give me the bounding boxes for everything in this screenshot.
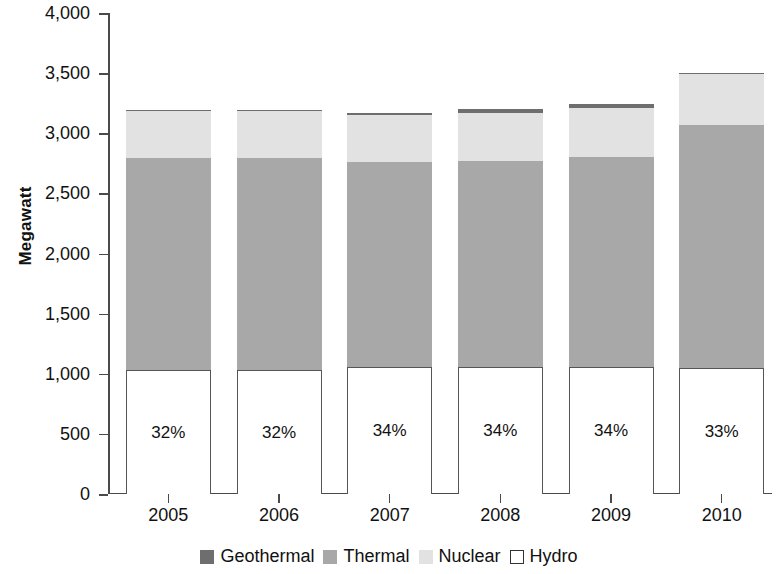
y-axis-tick-label: 1,500 bbox=[45, 305, 90, 323]
y-axis-tick bbox=[99, 314, 108, 316]
legend-item-nuclear[interactable]: Nuclear bbox=[419, 546, 501, 567]
bar-data-label: 34% bbox=[459, 421, 542, 441]
bar-group[interactable]: 33% bbox=[679, 13, 764, 494]
bar-segment-geothermal[interactable] bbox=[126, 110, 211, 111]
y-axis-line bbox=[108, 13, 110, 494]
y-axis-tick bbox=[99, 133, 108, 135]
bar-group[interactable]: 34% bbox=[347, 13, 432, 494]
x-axis-tick bbox=[500, 494, 502, 503]
bar-segment-thermal[interactable] bbox=[347, 162, 432, 367]
bar-segment-nuclear[interactable] bbox=[126, 111, 211, 158]
bar-data-label: 32% bbox=[238, 423, 321, 443]
y-axis-tick-label: 500 bbox=[60, 425, 90, 443]
x-axis-tick bbox=[610, 494, 612, 503]
bar-data-label: 33% bbox=[680, 422, 763, 442]
bar-segment-geothermal[interactable] bbox=[458, 109, 543, 113]
bar-data-label: 32% bbox=[127, 423, 210, 443]
legend-swatch-nuclear-icon bbox=[419, 550, 433, 564]
plot-area: 32%32%34%34%34%33% bbox=[108, 13, 772, 494]
bar-segment-thermal[interactable] bbox=[458, 161, 543, 367]
bar-segment-hydro[interactable]: 34% bbox=[569, 367, 654, 494]
bar-segment-hydro[interactable]: 34% bbox=[458, 367, 543, 494]
x-axis-tick bbox=[721, 494, 723, 503]
bar-segment-hydro[interactable]: 32% bbox=[237, 370, 322, 494]
bar-segment-nuclear[interactable] bbox=[569, 108, 654, 157]
legend-swatch-geothermal-icon bbox=[200, 550, 214, 564]
bar-segment-geothermal[interactable] bbox=[237, 110, 322, 111]
x-axis-tick-labels: 200520062007200820092010 bbox=[108, 505, 772, 535]
bar-data-label: 34% bbox=[348, 421, 431, 441]
x-axis-tick-label: 2007 bbox=[370, 505, 410, 526]
bar-segment-hydro[interactable]: 34% bbox=[347, 367, 432, 494]
x-axis-tick bbox=[278, 494, 280, 503]
bar-segment-geothermal[interactable] bbox=[347, 113, 432, 114]
legend-label-geothermal: Geothermal bbox=[220, 546, 314, 567]
bar-group[interactable]: 34% bbox=[458, 13, 543, 494]
y-axis-tick bbox=[99, 193, 108, 195]
y-axis-tick bbox=[99, 434, 108, 436]
x-axis-tick-label: 2009 bbox=[591, 505, 631, 526]
x-axis-tick bbox=[168, 494, 170, 503]
y-axis-tick-label: 3,500 bbox=[45, 64, 90, 82]
y-axis-tick bbox=[99, 13, 108, 15]
bar-segment-hydro[interactable]: 33% bbox=[679, 368, 764, 494]
y-axis-tick bbox=[99, 374, 108, 376]
legend-label-nuclear: Nuclear bbox=[439, 546, 501, 567]
legend-swatch-hydro-icon bbox=[510, 550, 524, 564]
bar-segment-nuclear[interactable] bbox=[679, 74, 764, 125]
bar-group[interactable]: 34% bbox=[569, 13, 654, 494]
bar-segment-nuclear[interactable] bbox=[347, 115, 432, 162]
y-axis-tick-label: 4,000 bbox=[45, 4, 90, 22]
x-axis-tick-label: 2008 bbox=[480, 505, 520, 526]
y-axis-tick-label: 0 bbox=[80, 485, 90, 503]
legend-item-hydro[interactable]: Hydro bbox=[510, 546, 578, 567]
bar-data-label: 34% bbox=[570, 421, 653, 441]
bar-group[interactable]: 32% bbox=[126, 13, 211, 494]
y-axis-tick-label: 3,000 bbox=[45, 124, 90, 142]
chart-container: Megawatt 05001,0001,5002,0002,5003,0003,… bbox=[0, 0, 778, 574]
y-axis-tick-label: 2,500 bbox=[45, 184, 90, 202]
bar-segment-geothermal[interactable] bbox=[569, 104, 654, 108]
bar-segment-nuclear[interactable] bbox=[237, 111, 322, 158]
x-axis-tick bbox=[389, 494, 391, 503]
legend-item-geothermal[interactable]: Geothermal bbox=[200, 546, 314, 567]
x-axis-tick-label: 2010 bbox=[702, 505, 742, 526]
y-axis-tick bbox=[99, 254, 108, 256]
bar-segment-thermal[interactable] bbox=[126, 158, 211, 370]
x-axis-tick-label: 2005 bbox=[148, 505, 188, 526]
bar-segment-geothermal[interactable] bbox=[679, 73, 764, 74]
bar-segment-thermal[interactable] bbox=[679, 125, 764, 368]
legend-item-thermal[interactable]: Thermal bbox=[323, 546, 409, 567]
x-axis-tick-label: 2006 bbox=[259, 505, 299, 526]
bar-segment-nuclear[interactable] bbox=[458, 113, 543, 161]
y-axis-tick bbox=[99, 73, 108, 75]
bar-segment-thermal[interactable] bbox=[569, 157, 654, 366]
y-axis-tick-labels: 05001,0001,5002,0002,5003,0003,5004,000 bbox=[0, 13, 104, 494]
y-axis-tick-label: 1,000 bbox=[45, 365, 90, 383]
legend-label-thermal: Thermal bbox=[343, 546, 409, 567]
bar-segment-hydro[interactable]: 32% bbox=[126, 370, 211, 494]
bar-segment-thermal[interactable] bbox=[237, 158, 322, 370]
bar-group[interactable]: 32% bbox=[237, 13, 322, 494]
legend-swatch-thermal-icon bbox=[323, 550, 337, 564]
y-axis-tick bbox=[99, 494, 108, 496]
y-axis-tick-label: 2,000 bbox=[45, 245, 90, 263]
legend-label-hydro: Hydro bbox=[530, 546, 578, 567]
chart-legend: Geothermal Thermal Nuclear Hydro bbox=[0, 546, 778, 567]
